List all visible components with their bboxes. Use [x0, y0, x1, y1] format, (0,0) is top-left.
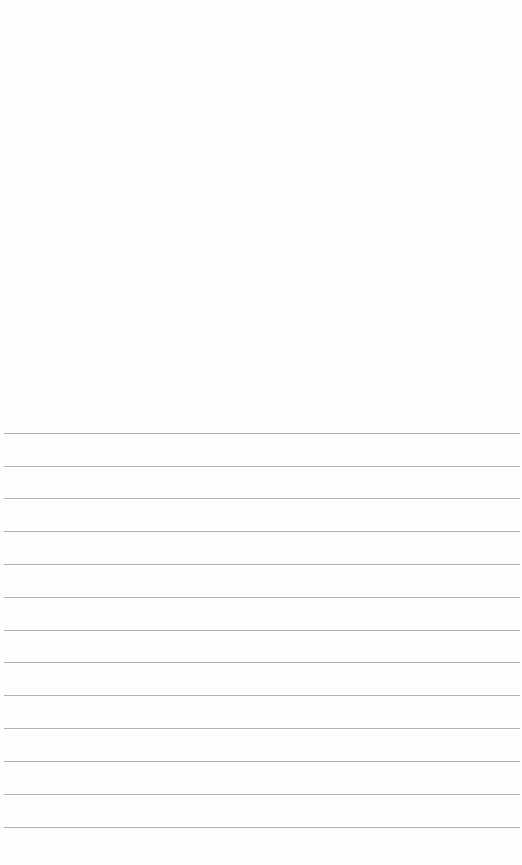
ruled-line [4, 827, 520, 828]
ruled-line [4, 630, 520, 631]
ruled-lines [0, 0, 522, 865]
ruled-line [4, 728, 520, 729]
ruled-line [4, 531, 520, 532]
ruled-line [4, 564, 520, 565]
ruled-line [4, 761, 520, 762]
ruled-line [4, 794, 520, 795]
lined-paper-page [0, 0, 522, 865]
ruled-line [4, 662, 520, 663]
ruled-line [4, 433, 520, 434]
ruled-line [4, 695, 520, 696]
ruled-line [4, 597, 520, 598]
ruled-line [4, 466, 520, 467]
ruled-line [4, 498, 520, 499]
